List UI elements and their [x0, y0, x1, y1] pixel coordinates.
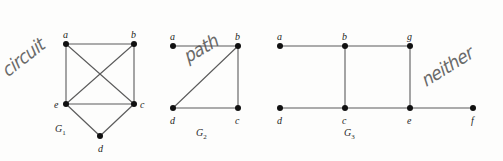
graph-caption-subscript: 2: [203, 133, 207, 141]
graph-caption-g3: G3: [344, 128, 355, 141]
vertex-g1-c: [131, 101, 137, 107]
vertex-label-g3-a: a: [277, 32, 282, 42]
vertex-label-g3-d: d: [277, 116, 282, 126]
graph-caption-subscript: 1: [62, 129, 66, 137]
vertex-g2-a: [170, 43, 176, 49]
vertex-label-g2-a: a: [170, 32, 175, 42]
graph-caption-g1: G1: [55, 124, 66, 137]
vertex-g1-e: [63, 101, 69, 107]
vertex-label-g3-g: g: [407, 32, 412, 42]
vertex-label-g3-f: f: [471, 116, 474, 126]
vertex-g2-b: [235, 43, 241, 49]
graph-caption-subscript: 3: [351, 133, 355, 141]
vertex-g3-c: [342, 105, 348, 111]
vertex-g2-c: [235, 105, 241, 111]
vertex-label-g2-b: b: [235, 32, 240, 42]
vertex-g3-a: [277, 43, 283, 49]
vertex-label-g1-d: d: [98, 144, 103, 154]
vertex-g2-d: [170, 105, 176, 111]
vertex-label-g2-c: c: [235, 116, 239, 126]
vertex-label-g1-b: b: [131, 30, 136, 40]
edge-g1-ed: [66, 104, 100, 136]
edge-g1-cd: [100, 104, 134, 136]
graph-figure: abecdG1circuitabdcG2pathabgdcefG3neither: [0, 0, 503, 161]
vertex-label-g1-c: c: [140, 100, 144, 110]
vertex-g3-f: [470, 105, 476, 111]
vertex-g3-g: [407, 43, 413, 49]
vertex-g1-a: [63, 41, 69, 47]
vertex-g3-d: [277, 105, 283, 111]
vertex-g3-e: [407, 105, 413, 111]
graph-g1: [63, 41, 137, 139]
vertex-label-g3-b: b: [342, 32, 347, 42]
vertex-label-g1-e: e: [54, 100, 58, 110]
vertex-g1-b: [131, 41, 137, 47]
vertex-label-g3-c: c: [342, 116, 346, 126]
vertex-label-g3-e: e: [407, 116, 411, 126]
vertex-label-g1-a: a: [63, 30, 68, 40]
graph-caption-g2: G2: [196, 128, 207, 141]
vertex-g1-d: [97, 133, 103, 139]
vertex-g3-b: [342, 43, 348, 49]
vertex-label-g2-d: d: [170, 116, 175, 126]
